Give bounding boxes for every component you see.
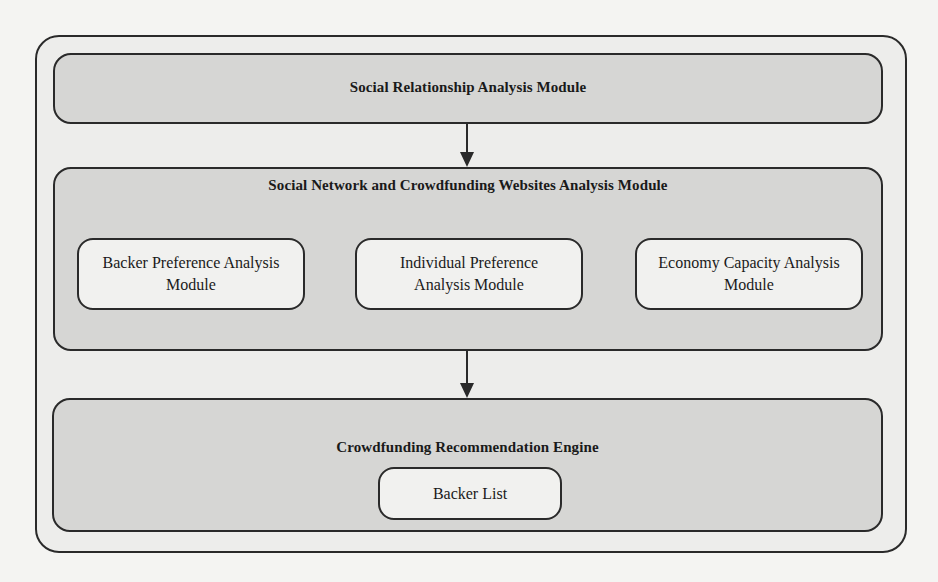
backer-list: Backer List (378, 467, 562, 520)
economy-capacity-analysis-module: Economy Capacity Analysis Module (635, 238, 863, 310)
module-title: Crowdfunding Recommendation Engine (54, 439, 881, 456)
backer-list-label: Backer List (433, 483, 507, 505)
module-title: Social Network and Crowdfunding Websites… (55, 177, 881, 194)
module-title: Social Relationship Analysis Module (55, 79, 881, 96)
backer-preference-analysis-module: Backer Preference Analysis Module (77, 238, 305, 310)
submodule-label-line2: Module (658, 274, 839, 296)
arrow-down-icon (457, 351, 477, 399)
social-relationship-analysis-module: Social Relationship Analysis Module (53, 53, 883, 124)
submodule-label-line2: Module (103, 274, 280, 296)
arrow-down-icon (457, 124, 477, 168)
individual-preference-analysis-module: Individual Preference Analysis Module (355, 238, 583, 310)
submodule-label-line1: Individual Preference (400, 252, 538, 274)
submodule-label-line2: Analysis Module (400, 274, 538, 296)
submodule-label-line1: Economy Capacity Analysis (658, 252, 839, 274)
submodule-label-line1: Backer Preference Analysis (103, 252, 280, 274)
